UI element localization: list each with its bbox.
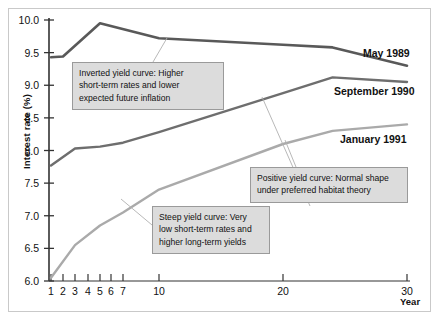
y-tick-label-8.0: 8.0: [5, 145, 39, 157]
y-tick-label-6.5: 6.5: [5, 242, 39, 254]
x-tick-label-1: 1: [48, 285, 54, 297]
series-label-january-1991: January 1991: [340, 133, 407, 145]
y-tick-label-7.5: 7.5: [5, 177, 39, 189]
y-tick-label-7.0: 7.0: [5, 210, 39, 222]
y-tick-label-10.0: 10.0: [5, 14, 39, 26]
x-axis-title: Year: [400, 296, 420, 307]
annotation-positive-line-1: Positive yield curve: Normal shape: [257, 172, 401, 184]
x-tick-label-20: 20: [277, 285, 289, 297]
x-tick-label-4: 4: [85, 285, 91, 297]
annotation-steep-line-3: higher long-term yields: [159, 236, 263, 248]
annotation-inverted-line-1: Inverted yield curve: Higher: [79, 67, 217, 79]
x-tick-label-2: 2: [60, 285, 66, 297]
x-tick-label-6: 6: [108, 285, 114, 297]
annotation-positive-yield-curve: Positive yield curve: Normal shape under…: [250, 167, 408, 203]
x-tick-label-5: 5: [97, 285, 103, 297]
series-label-may-1989: May 1989: [363, 47, 410, 59]
x-tick-label-7: 7: [120, 285, 126, 297]
x-tick-label-3: 3: [72, 285, 78, 297]
y-tick-label-9.0: 9.0: [5, 79, 39, 91]
annotation-steep-line-1: Steep yield curve: Very: [159, 211, 263, 223]
annotation-positive-line-2: under preferred habitat theory: [257, 184, 401, 196]
x-tick-label-10: 10: [153, 285, 165, 297]
annotation-steep-line-2: low short-term rates and: [159, 223, 263, 235]
leader-line-inverted: [153, 38, 167, 62]
y-tick-label-8.5: 8.5: [5, 112, 39, 124]
annotation-inverted-line-3: expected future inflation: [79, 92, 217, 104]
series-label-september-1990: September 1990: [334, 85, 415, 97]
annotation-inverted-yield-curve: Inverted yield curve: Higher short-term …: [72, 62, 224, 110]
y-tick-label-6.0: 6.0: [5, 275, 39, 287]
annotation-inverted-line-2: short-term rates and lower: [79, 79, 217, 91]
series-line-may-1989: [51, 23, 407, 65]
annotation-steep-yield-curve: Steep yield curve: Very low short-term r…: [152, 206, 270, 254]
y-tick-label-9.5: 9.5: [5, 47, 39, 59]
chart-figure: Interest rate (%) 6.06.57.07.58.08.59.09…: [0, 0, 439, 328]
